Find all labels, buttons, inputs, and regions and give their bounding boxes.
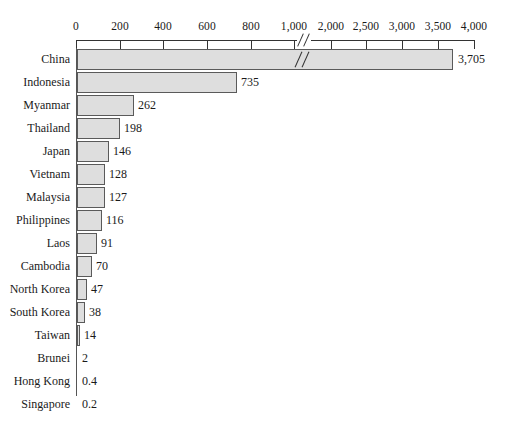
- x-tick-label-3000: 3,000: [389, 20, 415, 32]
- category-label-vietnam: Vietnam: [29, 163, 70, 186]
- table-row: Indonesia 735: [0, 71, 508, 94]
- bar-taiwan: [77, 325, 80, 346]
- value-label-hong-kong: 0.4: [82, 370, 97, 393]
- bar-vietnam: [77, 164, 105, 185]
- category-label-laos: Laos: [47, 232, 70, 255]
- category-label-myanmar: Myanmar: [23, 94, 70, 117]
- bar-south-korea: [77, 302, 85, 323]
- value-label-malaysia: 127: [109, 186, 127, 209]
- x-tick-label-600: 600: [198, 20, 216, 32]
- table-row: Singapore 0.2: [0, 393, 508, 416]
- category-label-philippines: Philippines: [16, 209, 70, 232]
- table-row: Taiwan 14: [0, 324, 508, 347]
- value-label-cambodia: 70: [96, 255, 108, 278]
- bar-thailand: [77, 118, 120, 139]
- x-axis-break-icon: [297, 33, 313, 49]
- bar-philippines: [77, 210, 102, 231]
- table-row: North Korea 47: [0, 278, 508, 301]
- table-row: South Korea 38: [0, 301, 508, 324]
- value-label-thailand: 198: [124, 117, 142, 140]
- bar-indonesia: [77, 72, 237, 93]
- value-label-myanmar: 262: [138, 94, 156, 117]
- bar-north-korea: [77, 279, 87, 300]
- category-label-hong-kong: Hong Kong: [14, 370, 70, 393]
- x-tick-label-1000: 1,000: [281, 20, 307, 32]
- category-label-brunei: Brunei: [37, 347, 70, 370]
- table-row: Thailand 198: [0, 117, 508, 140]
- bar-break-icon: [294, 48, 310, 71]
- x-tick-label-2000: 2,000: [318, 20, 344, 32]
- x-tick-label-800: 800: [242, 20, 260, 32]
- x-axis-line-right: [311, 40, 475, 41]
- table-row: Vietnam 128: [0, 163, 508, 186]
- value-label-philippines: 116: [106, 209, 124, 232]
- bar-japan: [77, 141, 109, 162]
- bar-laos: [77, 233, 97, 254]
- category-label-cambodia: Cambodia: [21, 255, 70, 278]
- bar-rows: China 3,705 Indonesia 735 Myanmar 262 Th…: [0, 48, 508, 416]
- category-label-china: China: [41, 48, 70, 71]
- table-row: Hong Kong 0.4: [0, 370, 508, 393]
- value-label-indonesia: 735: [241, 71, 259, 94]
- category-label-south-korea: South Korea: [10, 301, 70, 324]
- x-tick-label-3500: 3,500: [425, 20, 451, 32]
- table-row: Brunei 2: [0, 347, 508, 370]
- value-label-south-korea: 38: [89, 301, 101, 324]
- category-label-north-korea: North Korea: [10, 278, 70, 301]
- value-label-singapore: 0.2: [82, 393, 97, 416]
- x-tick-label-2500: 2,500: [353, 20, 379, 32]
- table-row: Malaysia 127: [0, 186, 508, 209]
- value-label-taiwan: 14: [84, 324, 96, 347]
- value-label-north-korea: 47: [91, 278, 103, 301]
- bar-china: [77, 49, 453, 70]
- value-label-laos: 91: [101, 232, 113, 255]
- x-tick-label-400: 400: [154, 20, 172, 32]
- table-row: China 3,705: [0, 48, 508, 71]
- category-label-thailand: Thailand: [27, 117, 70, 140]
- value-label-brunei: 2: [82, 347, 88, 370]
- table-row: Cambodia 70: [0, 255, 508, 278]
- table-row: Myanmar 262: [0, 94, 508, 117]
- bar-cambodia: [77, 256, 92, 277]
- category-label-singapore: Singapore: [21, 393, 70, 416]
- bar-chart: 0 200 400 600 800 1,000 2,000 2,500 3,00…: [0, 0, 508, 423]
- table-row: Philippines 116: [0, 209, 508, 232]
- category-label-malaysia: Malaysia: [26, 186, 70, 209]
- bar-myanmar: [77, 95, 134, 116]
- category-label-japan: Japan: [43, 140, 70, 163]
- x-axis-line-left: [76, 40, 297, 41]
- category-label-taiwan: Taiwan: [35, 324, 70, 347]
- category-label-indonesia: Indonesia: [23, 71, 70, 94]
- value-label-japan: 146: [113, 140, 131, 163]
- value-label-vietnam: 128: [109, 163, 127, 186]
- x-tick-label-200: 200: [111, 20, 129, 32]
- table-row: Laos 91: [0, 232, 508, 255]
- x-tick-label-4000: 4,000: [461, 20, 487, 32]
- bar-malaysia: [77, 187, 105, 208]
- x-tick-label-0: 0: [73, 20, 79, 32]
- value-label-china: 3,705: [458, 48, 485, 71]
- table-row: Japan 146: [0, 140, 508, 163]
